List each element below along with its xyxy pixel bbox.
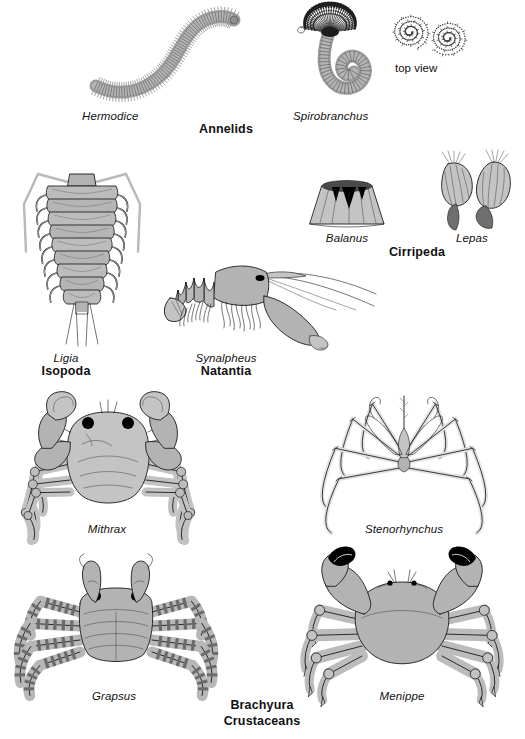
label-top-view: top view — [395, 62, 437, 74]
figure-balanus — [306, 178, 388, 230]
label-menippe: Menippe — [380, 690, 425, 702]
label-annelids: Annelids — [199, 122, 253, 136]
label-ligia: Ligia — [54, 352, 79, 364]
label-isopoda: Isopoda — [42, 364, 91, 378]
label-brachyura: Brachyura — [230, 698, 293, 712]
figure-synalpheus — [160, 248, 380, 353]
label-lepas: Lepas — [456, 232, 488, 244]
figure-spirobranchus-top-view — [386, 12, 486, 68]
figure-mithrax — [8, 388, 208, 538]
label-cirripeda: Cirripeda — [389, 245, 445, 259]
grapsus-right-cheliped — [131, 554, 152, 602]
figure-hermodice — [82, 4, 242, 109]
label-hermodice: Hermodice — [82, 110, 139, 122]
label-balanus: Balanus — [326, 232, 368, 244]
figure-ligia — [12, 152, 152, 352]
grapsus-left-cheliped — [80, 554, 101, 602]
label-synalpheus: Synalpheus — [195, 352, 256, 364]
figure-spirobranchus — [285, 2, 390, 112]
menippe-right-cheliped — [433, 546, 482, 614]
figure-grapsus — [0, 556, 236, 696]
label-natantia: Natantia — [201, 364, 252, 378]
label-crustaceans: Crustaceans — [224, 714, 301, 728]
label-grapsus: Grapsus — [92, 690, 136, 702]
menippe-left-cheliped — [322, 546, 371, 614]
illustration-plate: Hermodice Annelids Spirobranchus top vie… — [0, 0, 525, 739]
label-spirobranchus: Spirobranchus — [293, 110, 368, 122]
figure-lepas — [432, 150, 518, 232]
label-mithrax: Mithrax — [88, 523, 126, 535]
figure-stenorhynchus — [290, 388, 520, 533]
label-stenorhynchus: Stenorhynchus — [365, 523, 443, 535]
figure-menippe — [282, 548, 522, 698]
